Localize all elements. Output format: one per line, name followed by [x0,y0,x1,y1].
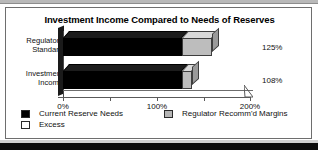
category-label-line-2: Income [3,78,63,87]
bar-segment-regulator-margins [182,38,212,56]
data-label-regulatory-standard: 125% [262,43,306,52]
category-label-line-1: Investment [3,69,63,78]
bar-segment-regulator-margins [182,71,192,89]
x-tick-0 [63,97,64,101]
legend-swatch-gray-icon [164,110,173,118]
legend-label: Excess [39,120,65,129]
category-label-regulatory-standard: Regulatory Standard [3,36,63,54]
legend-label: Regulator Recomm'd Margins [182,109,288,118]
scan-artifact-top-line [0,3,318,4]
x-axis-line [58,97,250,98]
scan-artifact-bottom [0,143,318,150]
bar-side-face [192,61,199,85]
chart-legend: Current Reserve Needs Excess Regulator R… [6,109,313,137]
legend-label: Current Reserve Needs [39,109,123,118]
data-label-investment-income: 108% [262,76,306,85]
plot-area: Regulatory Standard Investment Income 12… [6,28,313,106]
x-tick-200 [250,97,251,101]
bar-segment-current-reserve-needs [63,71,182,89]
x-tick-150 [204,97,205,101]
x-axis-line-back [63,90,253,91]
bar-side-face [212,28,219,52]
category-label-investment-income: Investment Income [3,69,63,87]
bar-top-face-dark [63,64,188,71]
legend-swatch-white-icon [21,121,30,129]
category-label-line-1: Regulatory [3,36,63,45]
bar-segment-current-reserve-needs [63,38,182,56]
legend-swatch-black-icon [21,110,30,118]
chart-frame: Investment Income Compared to Needs of R… [5,7,312,139]
chart-title: Investment Income Compared to Needs of R… [6,14,313,25]
category-label-line-2: Standard [3,45,63,54]
axis-arrow-icon [244,85,253,98]
x-tick-100 [157,97,158,101]
x-tick-50 [110,97,111,101]
bar-top-face-dark [63,31,188,38]
